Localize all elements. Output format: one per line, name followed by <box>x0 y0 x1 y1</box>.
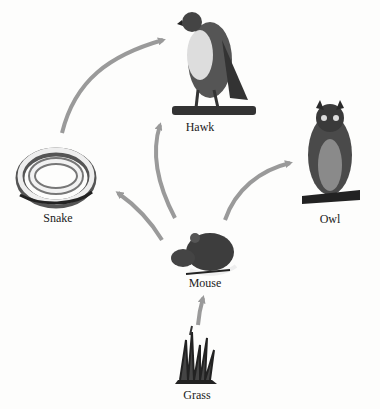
arrow-mouse-to-hawk <box>156 125 175 218</box>
arrow-mouse-to-snake <box>118 193 162 240</box>
label-grass: Grass <box>183 388 210 403</box>
snake-icon <box>20 150 92 204</box>
label-mouse: Mouse <box>189 276 222 291</box>
hawk-icon <box>172 12 256 115</box>
arrow-mouse-to-owl <box>225 163 290 220</box>
arrow-grass-to-mouse <box>198 298 203 325</box>
label-hawk: Hawk <box>186 120 215 135</box>
label-snake: Snake <box>43 211 72 226</box>
mouse-icon <box>171 233 236 274</box>
arrows-layer <box>0 0 380 409</box>
owl-icon <box>302 100 360 204</box>
grass-icon <box>175 326 217 384</box>
arrow-snake-to-hawk <box>62 40 163 133</box>
label-owl: Owl <box>320 212 341 227</box>
food-web-diagram: Hawk Owl Snake Mouse Grass <box>0 0 380 409</box>
